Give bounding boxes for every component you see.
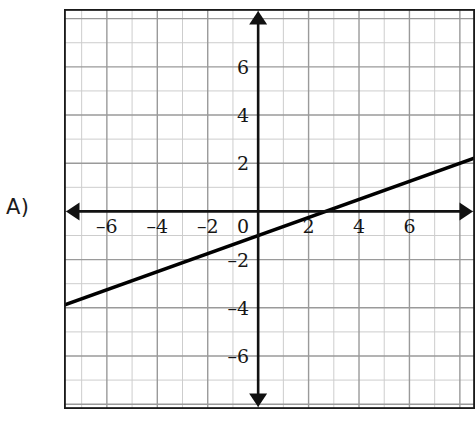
y-tick-label-4: –4 xyxy=(228,297,250,319)
y-tick-label-2: 2 xyxy=(237,152,249,174)
x-tick-label-0: –6 xyxy=(96,215,118,237)
y-tick-label-5: –6 xyxy=(228,345,250,367)
coordinate-plane-figure: –6–4–2246642–2–4–60 xyxy=(64,9,475,409)
y-tick-label-1: 4 xyxy=(237,104,249,126)
plot-background xyxy=(64,9,475,409)
origin-label: 0 xyxy=(237,215,249,237)
x-tick-label-5: 6 xyxy=(403,215,415,237)
x-tick-label-2: –2 xyxy=(197,215,219,237)
x-tick-label-4: 4 xyxy=(353,215,365,237)
x-tick-label-1: –4 xyxy=(146,215,168,237)
y-tick-label-0: 6 xyxy=(237,56,249,78)
graph-page: A) –6–4–2246642–2–4–60 xyxy=(0,0,475,422)
problem-label: A) xyxy=(6,195,30,219)
x-tick-label-3: 2 xyxy=(303,215,315,237)
coordinate-plane-svg: –6–4–2246642–2–4–60 xyxy=(64,9,475,409)
y-tick-label-3: –2 xyxy=(228,249,250,271)
